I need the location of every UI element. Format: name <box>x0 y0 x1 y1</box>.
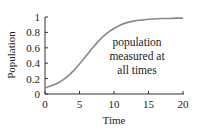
annotation-text: populationmeasured atall times <box>109 36 165 76</box>
y-tick-label: 0.6 <box>26 42 40 54</box>
x-axis-label: Time <box>103 114 126 126</box>
x-tick-label: 20 <box>178 98 190 110</box>
svg-text:all times: all times <box>117 64 157 76</box>
x-tick-label: 0 <box>42 98 48 110</box>
population-chart: 00.20.40.60.81 05101520 Time Population … <box>0 0 200 132</box>
y-tick-label: 0.4 <box>26 57 40 69</box>
x-tick-label: 5 <box>77 98 83 110</box>
y-tick-label: 1 <box>35 11 41 23</box>
x-tick-label: 15 <box>143 98 155 110</box>
y-tick-label: 0.8 <box>26 26 40 38</box>
svg-text:measured at: measured at <box>109 50 165 62</box>
x-tick-label: 10 <box>109 98 121 110</box>
y-axis-label: Population <box>5 31 17 79</box>
y-tick-label: 0.2 <box>26 73 40 85</box>
svg-text:population: population <box>112 36 161 49</box>
y-tick-label: 0 <box>35 88 41 100</box>
